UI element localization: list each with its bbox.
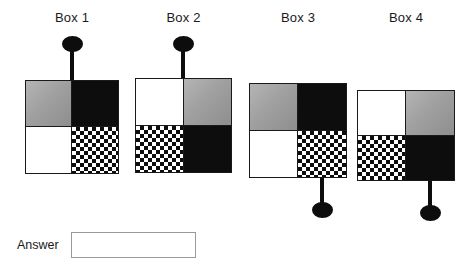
- answer-row: Answer: [17, 231, 196, 259]
- pin-stem-icon: [181, 50, 185, 80]
- box-3-quadrant-top-left: [250, 84, 298, 131]
- box-3-quadrant-top-right: [298, 84, 346, 131]
- box-group-2: Box 2: [135, 10, 232, 180]
- box-1-quadrant-top-left: [26, 81, 72, 127]
- box-title-3: Box 3: [249, 10, 347, 25]
- pin-knob-icon: [420, 205, 441, 221]
- box-2-quadrant-bottom-left: [136, 126, 184, 173]
- box-2-quadrant-top-right: [184, 79, 232, 126]
- box-square-2: [135, 78, 232, 173]
- box-3-quadrant-bottom-left: [250, 131, 298, 178]
- answer-input[interactable]: [71, 232, 196, 258]
- box-2-quadrant-top-left: [136, 79, 184, 126]
- box-square-1: [25, 80, 119, 174]
- box-square-4: [357, 90, 455, 181]
- pin-stem-icon: [70, 50, 74, 80]
- box-4-quadrant-top-right: [406, 91, 454, 136]
- box-group-1: Box 1: [25, 10, 119, 180]
- box-title-2: Box 2: [135, 10, 232, 25]
- box-2-quadrant-bottom-right: [184, 126, 232, 173]
- box-1-quadrant-bottom-right: [72, 127, 118, 173]
- box-3-quadrant-bottom-right: [298, 131, 346, 178]
- box-4-quadrant-top-left: [358, 91, 406, 136]
- answer-label: Answer: [17, 238, 59, 253]
- box-square-3: [249, 83, 347, 178]
- box-title-1: Box 1: [25, 10, 119, 25]
- pin-stem-icon: [320, 178, 324, 204]
- box-group-4: Box 4: [357, 10, 455, 225]
- pin-stem-icon: [428, 181, 432, 207]
- box-group-3: Box 3: [249, 10, 347, 225]
- box-4-quadrant-bottom-left: [358, 136, 406, 181]
- box-4-quadrant-bottom-right: [406, 136, 454, 181]
- box-1-quadrant-bottom-left: [26, 127, 72, 173]
- puzzle-canvas: Box 1 Box 2 Box 3: [0, 0, 467, 275]
- pin-knob-icon: [312, 202, 333, 218]
- box-1-quadrant-top-right: [72, 81, 118, 127]
- box-title-4: Box 4: [357, 10, 455, 25]
